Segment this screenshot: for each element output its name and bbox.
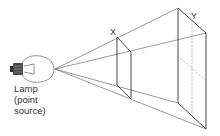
lamp-label-line: Lamp [14,83,46,94]
plane-y-grid-lines [178,20,206,116]
light-rays [55,8,206,129]
lamp-label-line: (point [14,94,46,105]
lamp-label: Lamp (point source) [14,83,46,116]
plane-x-label: X [110,27,116,37]
lamp-icon [10,56,54,83]
plane-y-label: Y [191,11,197,21]
lamp-label-line: source) [14,105,46,116]
